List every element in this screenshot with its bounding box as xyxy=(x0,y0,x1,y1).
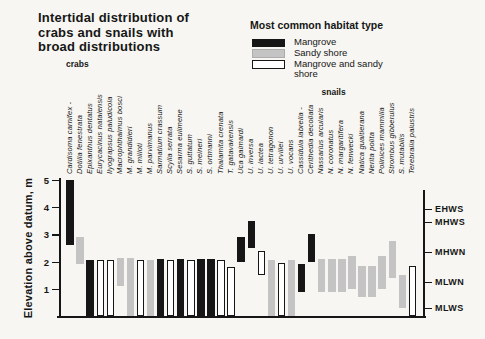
chart-bar xyxy=(399,275,406,308)
species-label: U. lactea xyxy=(257,143,265,174)
species-label: U. vocans xyxy=(287,139,295,174)
y-axis-line-left xyxy=(59,178,61,318)
legend-item: Sandy shore xyxy=(250,48,383,59)
figure-page: Intertidal distribution of crabs and sna… xyxy=(0,0,485,339)
species-label: Sarmatium crassum xyxy=(156,105,164,174)
species-label: Sesarma eulimene xyxy=(176,109,184,174)
chart-bar xyxy=(97,260,104,316)
tide-level-label: MLWN xyxy=(435,278,464,287)
species-label: Strombus gibberulus xyxy=(388,102,396,174)
species-label: Natica gualtierana xyxy=(358,111,366,174)
legend-items: MangroveSandy shoreMangrove and sandy sh… xyxy=(250,37,383,69)
tide-tick xyxy=(424,282,432,283)
legend-item-label: Sandy shore xyxy=(294,48,347,58)
chart-bar xyxy=(127,258,134,316)
chart-bar xyxy=(358,266,365,297)
chart-bar xyxy=(237,237,244,261)
habitat-legend: Most common habitat type MangroveSandy s… xyxy=(250,19,383,69)
species-label: Ilyograpsus paludicola xyxy=(106,96,114,174)
species-label: Macrophthalmus bosci xyxy=(116,96,124,174)
legend-title: Most common habitat type xyxy=(250,19,383,31)
species-label: M. milloti xyxy=(136,143,144,174)
species-label: U. inversa xyxy=(247,139,255,174)
chart-bar xyxy=(298,264,305,291)
chart-bar xyxy=(207,259,214,316)
species-label: N. fenwecki xyxy=(347,134,355,174)
group-label-snails: snails xyxy=(322,87,346,97)
chart-title-line-3: broad distributions xyxy=(38,40,189,55)
chart-bar xyxy=(328,259,335,292)
tide-level-label: EHWS xyxy=(435,205,464,214)
tide-tick xyxy=(424,308,432,309)
chart-bar xyxy=(318,259,325,292)
chart-bar xyxy=(258,251,265,275)
x-axis-line xyxy=(57,316,426,318)
chart-bar xyxy=(338,259,345,292)
tide-level-label: MHWS xyxy=(435,218,465,227)
sandy-swatch-icon xyxy=(252,49,285,58)
tide-tick xyxy=(424,222,432,223)
species-label: Terebralia palustris xyxy=(408,108,416,174)
species-label: Scylla serrata xyxy=(166,126,174,174)
species-label: U. urvillei xyxy=(277,142,285,175)
species-label: Cerithedia decollata xyxy=(307,105,315,174)
species-label: Uca gaimardi xyxy=(237,128,245,174)
chart-bar xyxy=(308,234,315,261)
chart-bar xyxy=(227,267,234,316)
mangrove-swatch-icon xyxy=(252,39,285,48)
species-label: S. mutabilis xyxy=(398,133,406,174)
y-tick-label: 3 xyxy=(35,229,49,240)
species-label: N. coronatus xyxy=(327,130,335,174)
species-label: N. margaritifera xyxy=(337,120,345,174)
y-tick xyxy=(52,289,59,290)
chart-bar xyxy=(409,266,416,316)
tide-level-label: MLWS xyxy=(435,304,464,313)
y-tick-label: 4 xyxy=(35,202,49,213)
species-label: M. parvimanus xyxy=(146,123,154,174)
chart-bar xyxy=(117,258,124,287)
species-label: S. meineri xyxy=(196,139,204,174)
chart-bar xyxy=(217,260,224,316)
y-tick xyxy=(52,262,59,263)
tide-level-label: MHWN xyxy=(435,248,466,257)
y-tick xyxy=(52,180,59,181)
species-label: Nerita polita xyxy=(368,132,376,174)
legend-item-label: Mangrove and sandy shore xyxy=(294,59,383,79)
species-label: S. guttatum xyxy=(186,134,194,174)
y-tick-label: 5 xyxy=(35,175,49,186)
species-label: T. gatavakensis xyxy=(227,120,235,174)
chart-bar xyxy=(167,260,174,316)
chart-bar xyxy=(368,266,375,297)
chart-bar xyxy=(389,241,396,278)
tide-tick xyxy=(424,209,432,210)
y-tick xyxy=(52,234,59,235)
chart-bar xyxy=(187,260,194,316)
y-axis-label: Elevation above datum, m xyxy=(22,173,34,323)
species-label: Polinices mammilla xyxy=(378,107,386,174)
chart-bar xyxy=(157,259,164,316)
chart-title-line-1: Intertidal distribution of xyxy=(38,11,189,26)
both-swatch-icon xyxy=(252,60,285,69)
species-label: M. grandidieri xyxy=(126,126,134,174)
chart-title: Intertidal distribution of crabs and sna… xyxy=(38,11,189,55)
chart-bar xyxy=(248,221,255,248)
species-label: Cardisoma carnifex - xyxy=(66,102,74,174)
chart-title-line-2: crabs and snails with xyxy=(38,26,189,41)
species-label: U. tetragonon xyxy=(267,127,275,174)
chart-bar xyxy=(268,260,275,316)
chart-bar xyxy=(288,260,295,316)
chart-bar xyxy=(137,260,144,316)
chart-bar xyxy=(348,256,355,289)
group-label-crabs: crabs xyxy=(66,59,89,69)
chart-bar xyxy=(278,263,285,316)
species-label: Cassidula labrella - xyxy=(297,107,305,174)
species-label: S. ortmanni xyxy=(206,134,214,174)
species-label: Thalamita crenata xyxy=(217,111,225,174)
y-tick-label: 2 xyxy=(35,257,49,268)
chart-bar xyxy=(86,260,93,316)
species-label: Dotilla fenestrata xyxy=(76,115,84,174)
chart-bar xyxy=(378,256,385,289)
legend-item-label: Mangrove xyxy=(294,37,336,47)
legend-item: Mangrove and sandy shore xyxy=(250,59,383,70)
chart-bar xyxy=(107,260,114,316)
